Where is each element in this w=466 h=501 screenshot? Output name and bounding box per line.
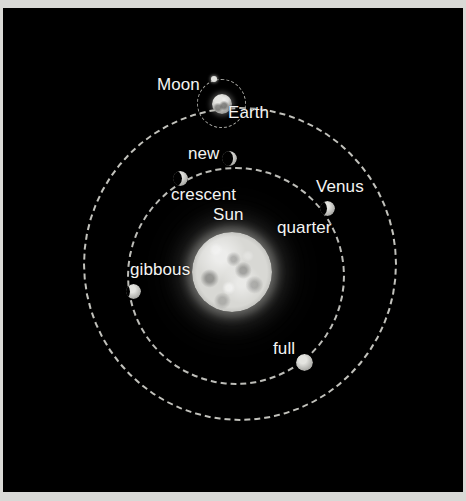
label-phase-crescent: crescent: [171, 186, 236, 203]
venus-phase-quarter-body: [320, 201, 335, 216]
space-background: Moon Earth new crescent Venus Sun quarte…: [3, 8, 463, 492]
label-phase-quarter: quarter: [277, 219, 332, 236]
label-phase-new: new: [188, 145, 220, 162]
venus-phase-full-body: [296, 354, 313, 371]
venus-phase-crescent-body: [173, 171, 188, 186]
sun-surface-texture: [192, 232, 272, 312]
label-earth: Earth: [228, 104, 269, 121]
frame-edge-top: [0, 0, 466, 8]
venus-phase-gibbous-body: [126, 284, 141, 299]
label-phase-gibbous: gibbous: [130, 261, 190, 278]
venus-lit-disc: [296, 354, 313, 371]
label-venus: Venus: [316, 178, 364, 195]
venus-phase-new-body: [222, 151, 237, 166]
venus-phases-diagram: Moon Earth new crescent Venus Sun quarte…: [0, 0, 466, 501]
label-moon: Moon: [157, 76, 200, 93]
sun-body: [192, 232, 272, 312]
label-phase-full: full: [273, 340, 295, 357]
moon-body: [211, 76, 217, 82]
label-sun: Sun: [213, 206, 244, 223]
frame-edge-bottom: [0, 492, 466, 501]
